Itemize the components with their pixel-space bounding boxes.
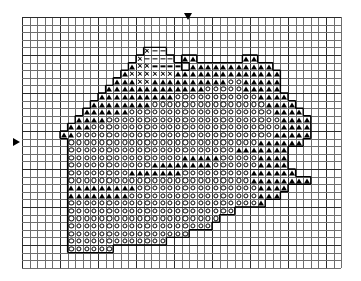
stitch-cell-circle[interactable]: [212, 146, 220, 154]
stitch-cell-circle[interactable]: [182, 108, 190, 116]
stitch-cell-circle[interactable]: [204, 169, 212, 177]
stitch-cell-circle[interactable]: [136, 177, 144, 185]
stitch-cell-triangle[interactable]: [144, 93, 152, 101]
stitch-cell-triangle[interactable]: [235, 146, 243, 154]
stitch-cell-circle[interactable]: [189, 131, 197, 139]
stitch-cell-triangle[interactable]: [258, 177, 266, 185]
stitch-cell-circle[interactable]: [159, 146, 167, 154]
stitch-cell-triangle[interactable]: [265, 139, 273, 147]
stitch-cell-triangle[interactable]: [197, 85, 205, 93]
stitch-cell-triangle[interactable]: [242, 70, 250, 78]
stitch-cell-circle[interactable]: [182, 192, 190, 200]
stitch-cell-triangle[interactable]: [189, 85, 197, 93]
stitch-cell-circle[interactable]: [83, 199, 91, 207]
stitch-cell-triangle[interactable]: [151, 161, 159, 169]
stitch-cell-circle[interactable]: [128, 207, 136, 215]
stitch-cell-triangle[interactable]: [128, 63, 136, 71]
stitch-cell-circle[interactable]: [106, 215, 114, 223]
stitch-cell-circle[interactable]: [174, 230, 182, 238]
stitch-cell-circle[interactable]: [227, 116, 235, 124]
stitch-cell-circle[interactable]: [250, 199, 258, 207]
stitch-cell-circle[interactable]: [151, 116, 159, 124]
stitch-cell-circle[interactable]: [197, 146, 205, 154]
stitch-cell-triangle[interactable]: [166, 169, 174, 177]
stitch-cell-circle[interactable]: [136, 192, 144, 200]
stitch-cell-circle[interactable]: [98, 245, 106, 253]
stitch-cell-circle[interactable]: [151, 123, 159, 131]
stitch-cell-circle[interactable]: [220, 184, 228, 192]
stitch-cell-circle[interactable]: [113, 237, 121, 245]
stitch-cell-circle[interactable]: [182, 93, 190, 101]
stitch-cell-circle[interactable]: [113, 169, 121, 177]
stitch-cell-circle[interactable]: [212, 184, 220, 192]
stitch-cell-triangle[interactable]: [265, 70, 273, 78]
stitch-cell-triangle[interactable]: [250, 70, 258, 78]
stitch-cell-circle[interactable]: [144, 123, 152, 131]
stitch-cell-circle[interactable]: [75, 154, 83, 162]
stitch-cell-triangle[interactable]: [280, 146, 288, 154]
stitch-cell-circle[interactable]: [128, 123, 136, 131]
stitch-cell-triangle[interactable]: [197, 154, 205, 162]
stitch-cell-triangle[interactable]: [212, 154, 220, 162]
stitch-cell-circle[interactable]: [265, 131, 273, 139]
stitch-cell-circle[interactable]: [250, 116, 258, 124]
stitch-cell-circle[interactable]: [166, 154, 174, 162]
stitch-cell-circle[interactable]: [121, 116, 129, 124]
stitch-cell-circle[interactable]: [83, 146, 91, 154]
stitch-cell-triangle[interactable]: [280, 108, 288, 116]
stitch-cell-circle[interactable]: [227, 108, 235, 116]
stitch-cell-triangle[interactable]: [204, 63, 212, 71]
stitch-cell-circle[interactable]: [204, 131, 212, 139]
stitch-cell-circle[interactable]: [121, 207, 129, 215]
stitch-cell-circle[interactable]: [227, 85, 235, 93]
stitch-cell-circle[interactable]: [144, 177, 152, 185]
stitch-cell-triangle[interactable]: [265, 78, 273, 86]
stitch-cell-circle[interactable]: [159, 139, 167, 147]
stitch-cell-dash[interactable]: [166, 63, 174, 71]
stitch-cell-circle[interactable]: [174, 101, 182, 109]
stitch-cell-triangle[interactable]: [189, 161, 197, 169]
stitch-cell-circle[interactable]: [189, 192, 197, 200]
stitch-cell-triangle[interactable]: [113, 85, 121, 93]
stitch-cell-triangle[interactable]: [151, 93, 159, 101]
stitch-cell-circle[interactable]: [197, 131, 205, 139]
stitch-cell-circle[interactable]: [197, 177, 205, 185]
stitch-cell-circle[interactable]: [235, 108, 243, 116]
stitch-cell-circle[interactable]: [166, 146, 174, 154]
stitch-cell-triangle[interactable]: [280, 169, 288, 177]
stitch-cell-triangle[interactable]: [227, 70, 235, 78]
stitch-cell-dash[interactable]: [151, 63, 159, 71]
stitch-cell-triangle[interactable]: [288, 169, 296, 177]
stitch-cell-cross[interactable]: [144, 70, 152, 78]
stitch-cell-triangle[interactable]: [136, 93, 144, 101]
stitch-cell-circle[interactable]: [189, 222, 197, 230]
stitch-cell-circle[interactable]: [242, 123, 250, 131]
stitch-cell-circle[interactable]: [227, 192, 235, 200]
stitch-cell-triangle[interactable]: [296, 123, 304, 131]
stitch-cell-circle[interactable]: [166, 192, 174, 200]
stitch-cell-circle[interactable]: [151, 199, 159, 207]
stitch-cell-circle[interactable]: [128, 237, 136, 245]
stitch-cell-triangle[interactable]: [204, 70, 212, 78]
stitch-cell-circle[interactable]: [121, 123, 129, 131]
stitch-cell-triangle[interactable]: [258, 85, 266, 93]
stitch-cell-triangle[interactable]: [68, 192, 76, 200]
stitch-cell-triangle[interactable]: [265, 177, 273, 185]
stitch-cell-circle[interactable]: [212, 131, 220, 139]
stitch-cell-circle[interactable]: [136, 222, 144, 230]
stitch-cell-circle[interactable]: [182, 169, 190, 177]
stitch-cell-circle[interactable]: [121, 139, 129, 147]
stitch-cell-circle[interactable]: [144, 230, 152, 238]
stitch-cell-circle[interactable]: [242, 161, 250, 169]
stitch-cell-triangle[interactable]: [189, 55, 197, 63]
stitch-cell-circle[interactable]: [151, 177, 159, 185]
stitch-cell-triangle[interactable]: [204, 161, 212, 169]
stitch-cell-cross[interactable]: [136, 55, 144, 63]
stitch-cell-circle[interactable]: [151, 146, 159, 154]
stitch-cell-triangle[interactable]: [288, 177, 296, 185]
stitch-cell-triangle[interactable]: [280, 139, 288, 147]
stitch-cell-circle[interactable]: [90, 245, 98, 253]
stitch-cell-circle[interactable]: [90, 207, 98, 215]
stitch-cell-triangle[interactable]: [280, 184, 288, 192]
stitch-cell-triangle[interactable]: [83, 192, 91, 200]
